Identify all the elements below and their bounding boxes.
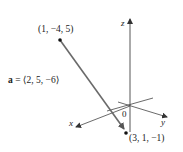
end-point-dot: [124, 131, 128, 135]
y-axis-label: y: [160, 117, 165, 127]
end-point-label: (3, 1, −1): [129, 133, 164, 144]
x-axis-label: x: [68, 118, 73, 128]
z-axis-label: z: [120, 18, 125, 28]
start-point-label: (1, −4, 5): [38, 24, 73, 35]
vector-diagram: (1, −4, 5) (3, 1, −1) 0 z y x a = ⟨2, 5,…: [0, 0, 183, 152]
vector-label: a = ⟨2, 5, −6⟩: [8, 75, 59, 85]
start-point-dot: [58, 38, 62, 42]
vector-arrow: [60, 40, 124, 129]
origin-label: 0: [122, 109, 127, 119]
vector-components: = ⟨2, 5, −6⟩: [13, 75, 60, 85]
